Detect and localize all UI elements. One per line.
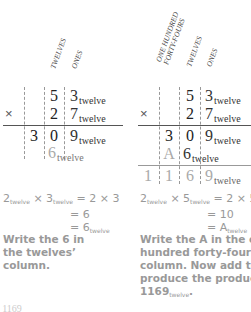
multiply-sign: × <box>5 106 13 121</box>
digit: A <box>162 146 176 162</box>
digit-with-base: 7twelve <box>205 106 241 127</box>
column-divider <box>179 87 180 184</box>
digit: 0 <box>183 128 197 144</box>
digit: 2 <box>183 106 197 122</box>
header-twelves: TWELVES <box>185 35 203 68</box>
header-twelves: TWELVES <box>49 37 67 70</box>
header-ones: ONES <box>205 48 219 68</box>
digit-with-base: 6twelve <box>48 145 84 166</box>
digit: 1 <box>162 168 176 184</box>
digit: 3 <box>162 128 176 144</box>
digit-with-base: 6twelve <box>183 146 219 167</box>
column-divider <box>24 87 25 159</box>
instruction-text: Write the A in the one hundred forty-fou… <box>140 233 251 301</box>
digit-with-base: 7twelve <box>70 106 106 127</box>
equation: 2twelve × 5twelve = 2 × 5 = 10 = Atwelve <box>140 192 251 237</box>
digit: 2 <box>47 106 61 122</box>
digit-with-base: 9twelve <box>205 168 241 189</box>
sum-line <box>138 165 251 166</box>
column-divider <box>200 87 201 184</box>
digit: 5 <box>183 88 197 104</box>
column-divider <box>159 87 160 184</box>
instruction-text: Write the 6 in the twelves’ column. <box>3 233 103 272</box>
digit: 1 <box>141 168 155 184</box>
sum-line <box>3 125 123 126</box>
multiply-sign: × <box>140 106 148 121</box>
equation: 2twelve × 3twelve = 2 × 3 = 6 = 6twelve <box>3 192 123 237</box>
header-ones: ONES <box>70 50 84 70</box>
sum-line <box>138 125 251 126</box>
column-divider <box>44 87 45 159</box>
digit: 6 <box>183 168 197 184</box>
digit: 3 <box>27 128 41 144</box>
header-one-hundred-forty-fours: ONE HUNDREDFORTY-FOURS <box>155 11 188 66</box>
footer-fragment: = 1169 <box>0 303 22 312</box>
digit: 5 <box>47 88 61 104</box>
digit: 0 <box>47 128 61 144</box>
